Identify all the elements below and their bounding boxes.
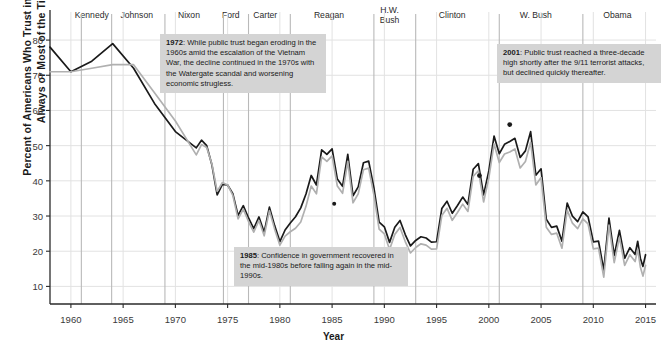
annotation-1985-year: 1985: [240, 251, 261, 260]
annotation-2001: 2001: Public trust reached a three-decad… [497, 44, 661, 83]
annotation-pointer-2001 [477, 173, 482, 178]
marker-1985 [332, 202, 336, 206]
annotation-2001-text: Public trust reached a three-decade high… [503, 48, 644, 77]
annotation-1972-text: While public trust began eroding in the … [166, 38, 316, 88]
annotation-2001-year: 2001: [503, 48, 524, 57]
annotation-1985-text: Confidence in government recovered in th… [240, 251, 394, 280]
annotation-1972-year: 1972: [166, 38, 187, 47]
peak-marker-2001 [507, 122, 512, 127]
annotation-1985: 1985: Confidence in government recovered… [234, 247, 408, 286]
annotation-1972: 1972: While public trust began eroding i… [160, 34, 326, 93]
series-line-series-light [50, 65, 646, 277]
chart-root: Percent of Americans Who Trust in Govern… [0, 0, 667, 359]
